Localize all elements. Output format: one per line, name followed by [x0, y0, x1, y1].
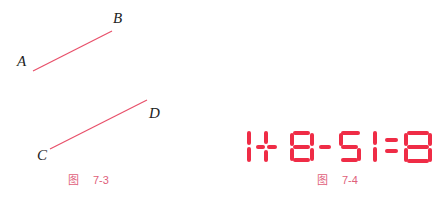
- digit-1-second: [373, 131, 377, 162]
- digit-5: [339, 131, 361, 162]
- digit-8: [290, 131, 314, 162]
- segment-ab: [33, 31, 112, 71]
- point-label-b: B: [113, 11, 122, 26]
- figure-7-4-caption: 图7-4: [317, 175, 358, 186]
- point-label-c: C: [37, 148, 47, 163]
- point-label-d: D: [149, 106, 160, 121]
- figure-7-3-caption: 图7-3: [68, 175, 109, 186]
- caption-figure-word: 图: [68, 174, 79, 186]
- digit-1: [247, 131, 251, 162]
- point-label-a: A: [17, 54, 26, 69]
- plus-sign: [256, 131, 277, 162]
- digit-8-result: [404, 131, 432, 163]
- caption-figure-word: 图: [317, 174, 328, 186]
- minus-sign: [319, 145, 331, 149]
- caption-figure-number: 7-4: [342, 174, 358, 186]
- caption-figure-number: 7-3: [93, 174, 109, 186]
- segment-cd: [50, 100, 147, 149]
- matchstick-equation: [247, 131, 432, 163]
- equals-sign: [385, 138, 398, 153]
